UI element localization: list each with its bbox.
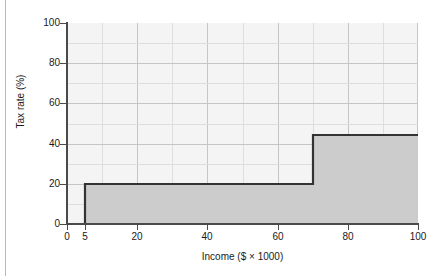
x-axis-tick-label: 60	[258, 232, 298, 242]
y-axis-tick-label: 60	[30, 98, 60, 108]
x-axis-tick	[348, 224, 349, 230]
y-axis-tick	[60, 23, 67, 24]
y-axis-tick-label: 80	[30, 58, 60, 68]
y-axis-tick-label: 20	[30, 179, 60, 189]
step-function-line	[67, 23, 418, 224]
y-axis-tick	[60, 184, 67, 185]
x-axis-tick-label: 5	[65, 232, 105, 242]
x-axis-tick-label: 20	[117, 232, 157, 242]
y-axis-tick-label: 0	[30, 219, 60, 229]
y-axis-tick-label: 100	[30, 18, 60, 28]
x-axis-tick	[278, 224, 279, 230]
x-axis-tick	[67, 224, 68, 230]
x-axis-tick	[418, 224, 419, 230]
tax-rate-chart-figure: 100 80 60 40 20 0 0 5 20 40 60 80 100 Ta…	[0, 0, 437, 276]
y-axis-line	[66, 22, 68, 225]
x-axis-tick-label: 100	[398, 232, 437, 242]
y-axis-tick	[60, 224, 67, 225]
x-axis-tick	[207, 224, 208, 230]
x-axis-tick	[85, 224, 86, 230]
y-axis-tick	[60, 144, 67, 145]
x-axis-tick-label: 40	[187, 232, 227, 242]
x-axis-tick	[137, 224, 138, 230]
y-axis-tick	[60, 103, 67, 104]
x-axis-title: Income ($ × 1000)	[67, 251, 418, 262]
x-axis-tick-label: 80	[328, 232, 368, 242]
y-axis-tick-label: 40	[30, 139, 60, 149]
y-axis-title: Tax rate (%)	[15, 52, 26, 152]
x-axis-line	[66, 223, 419, 225]
y-axis-tick	[60, 63, 67, 64]
plot-area	[67, 23, 418, 224]
